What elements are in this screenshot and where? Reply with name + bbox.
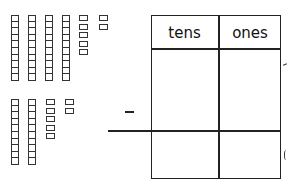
unit-cell [28,112,36,119]
unit-cell [28,48,36,55]
ones-column [65,99,74,114]
unit-cell [28,132,36,139]
unit-cell [28,125,36,132]
unit-cell [45,74,53,81]
unit-cell [11,74,19,81]
unit-cell [28,55,36,62]
ones-cube [46,125,55,131]
unit-cell [11,99,19,106]
unit-cell [45,55,53,62]
ones-cube [79,24,88,30]
unit-cell [28,28,36,35]
ones-cube [99,24,108,30]
ones-cube [79,15,88,21]
ones-column [99,15,108,30]
unit-cell [11,41,19,48]
ones-cube [46,116,55,122]
tens-rod [28,15,36,81]
unit-cell [45,41,53,48]
unit-cell [62,41,70,48]
unit-cell [11,112,19,119]
unit-cell [28,145,36,152]
tens-rod [28,99,36,165]
cell-row2-tens[interactable] [152,132,218,178]
unit-cell [28,35,36,42]
unit-cell [11,125,19,132]
ones-cube [99,15,108,21]
unit-cell [45,48,53,55]
ones-cube [79,49,88,55]
ones-cube [79,41,88,47]
unit-cell [11,28,19,35]
unit-cell [45,28,53,35]
minus-sign [125,111,134,113]
unit-cell [28,41,36,48]
unit-cell [62,68,70,75]
unit-cell [28,68,36,75]
header-ones: ones [219,24,281,42]
unit-cell [28,22,36,29]
tens-rod [11,15,19,81]
tens-rod [62,15,70,81]
unit-cell [11,61,19,68]
unit-cell [62,15,70,22]
unit-cell [62,22,70,29]
unit-cell [11,106,19,113]
unit-cell [62,48,70,55]
edge-mark [284,150,287,160]
ones-cube [79,32,88,38]
cell-row1-ones[interactable] [220,50,280,130]
unit-cell [62,35,70,42]
tens-rod [11,99,19,165]
unit-cell [28,74,36,81]
unit-cell [28,61,36,68]
unit-cell [11,145,19,152]
ones-cube [46,133,55,139]
unit-cell [45,61,53,68]
unit-cell [28,152,36,159]
unit-cell [28,139,36,146]
unit-cell [62,28,70,35]
unit-cell [11,132,19,139]
unit-cell [62,55,70,62]
unit-cell [11,15,19,22]
unit-cell [11,139,19,146]
unit-cell [28,158,36,165]
ones-cube [46,99,55,105]
unit-cell [11,35,19,42]
ones-cube [65,99,74,105]
unit-cell [62,74,70,81]
ones-column [79,15,88,55]
unit-cell [28,15,36,22]
unit-cell [45,35,53,42]
cell-row2-ones[interactable] [220,132,280,178]
unit-cell [28,119,36,126]
ones-cube [65,108,74,114]
ones-column [46,99,55,139]
unit-cell [45,68,53,75]
unit-cell [28,99,36,106]
unit-cell [11,119,19,126]
unit-cell [28,106,36,113]
tens-rod [45,15,53,81]
unit-cell [45,22,53,29]
edge-mark [283,63,287,65]
unit-cell [11,22,19,29]
unit-cell [11,158,19,165]
cell-row1-tens[interactable] [152,50,218,130]
unit-cell [11,68,19,75]
unit-cell [11,48,19,55]
unit-cell [11,152,19,159]
unit-cell [45,15,53,22]
unit-cell [62,61,70,68]
unit-cell [11,55,19,62]
ones-cube [46,108,55,114]
header-tens: tens [151,24,218,42]
